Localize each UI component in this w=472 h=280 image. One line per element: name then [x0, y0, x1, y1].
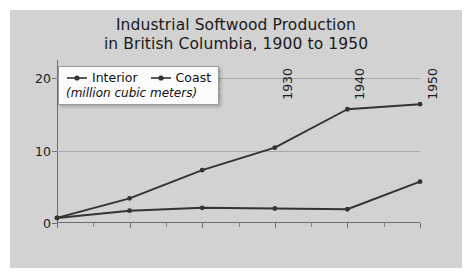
data-point-interior-1940: [345, 107, 350, 112]
chart-legend: Interior Coast (million cubic meters): [58, 66, 219, 105]
x-tick-mark-1900: [57, 223, 58, 228]
legend-item-coast: Coast: [150, 70, 211, 85]
chart-title: Industrial Softwood Production in Britis…: [10, 16, 462, 54]
legend-line-marker-icon: [66, 73, 88, 83]
x-tick-minor-1905: [93, 223, 94, 227]
data-point-coast-1900: [55, 216, 60, 221]
data-point-coast-1920: [200, 205, 205, 210]
data-point-coast-1930: [272, 206, 277, 211]
x-tick-minor-1915: [166, 223, 167, 227]
x-tick-mark-1920: [202, 223, 203, 228]
chart-figure: Industrial Softwood Production in Britis…: [10, 10, 462, 268]
legend-item-interior: Interior: [66, 70, 138, 85]
x-tick-mark-1940: [347, 223, 348, 228]
data-point-interior-1930: [272, 145, 277, 150]
legend-label-interior: Interior: [92, 70, 138, 85]
x-tick-mark-1950: [420, 223, 421, 228]
data-point-coast-1940: [345, 207, 350, 212]
chart-title-line-1: Industrial Softwood Production: [10, 16, 462, 35]
x-tick-mark-1930: [275, 223, 276, 228]
data-point-coast-1910: [127, 208, 132, 213]
series-line-interior: [57, 104, 420, 218]
data-point-interior-1950: [418, 102, 423, 107]
x-tick-label-1950: 1950: [425, 68, 440, 100]
legend-entries: Interior Coast: [66, 70, 211, 85]
y-tick-label-0: 0: [43, 216, 51, 231]
x-tick-minor-1925: [239, 223, 240, 227]
y-tick-label-20: 20: [35, 71, 51, 86]
x-tick-mark-1910: [130, 223, 131, 228]
legend-line-marker-icon: [150, 73, 172, 83]
data-point-interior-1910: [127, 196, 132, 201]
x-tick-minor-1935: [311, 223, 312, 227]
legend-label-coast: Coast: [176, 70, 211, 85]
x-tick-minor-1945: [384, 223, 385, 227]
data-point-coast-1950: [418, 179, 423, 184]
chart-title-line-2: in British Columbia, 1900 to 1950: [10, 35, 462, 54]
y-tick-label-10: 10: [35, 143, 51, 158]
data-point-interior-1920: [200, 168, 205, 173]
series-line-coast: [57, 182, 420, 218]
legend-subtitle: (million cubic meters): [66, 86, 211, 100]
